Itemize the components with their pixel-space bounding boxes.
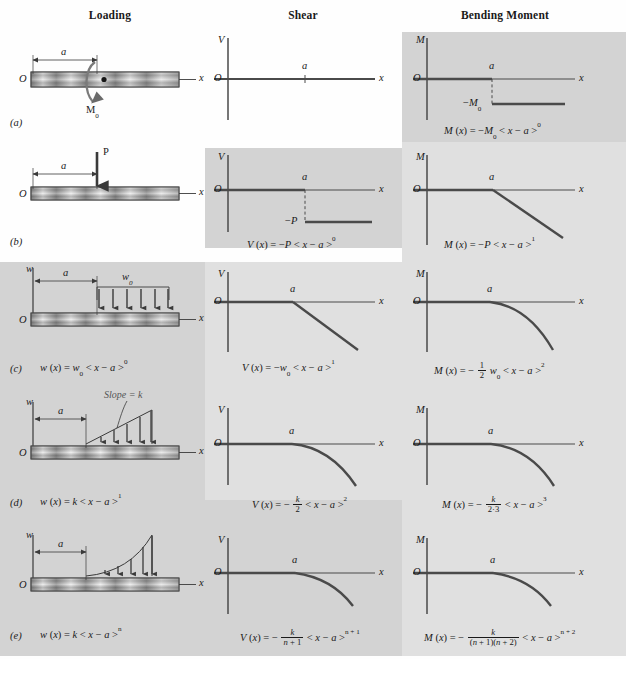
row-e-loading-w-label: w — [26, 529, 33, 540]
row-c-shear-x-label: x — [379, 295, 384, 306]
row-e-moment-tick-a-label: a — [490, 554, 495, 565]
row-d-loading-w-label: w — [26, 396, 33, 407]
row-e-shear-plot — [214, 538, 375, 614]
row-a-shear-axis-label: V — [218, 34, 224, 45]
row-c-loading-equation: w (x) = w0 < x − a >0 — [40, 363, 127, 374]
row-e-shear-origin-label: O — [214, 566, 222, 577]
row-c-moment-axis-label: M — [416, 268, 425, 279]
row-a-shear-x-label: x — [379, 72, 384, 83]
row-c-shear-tick-a-label: a — [290, 283, 295, 294]
row-c-loading-w-label: w — [26, 263, 33, 274]
row-e-moment-plot — [413, 538, 575, 614]
row-d-loading-origin-label: O — [19, 447, 27, 458]
row-d-shear-tick-a-label: a — [289, 425, 294, 436]
row-a-loading-origin-label: O — [19, 73, 27, 84]
row-a-moment-origin-label: O — [413, 72, 421, 83]
row-e-moment-equation: M (x) = − k(n + 1)(n + 2) < x − a >n + 2 — [424, 628, 575, 647]
row-d-loading-equation: w (x) = k < x − a >1 — [40, 497, 122, 508]
row-b-shear-equation: V (x) = −P < x − a >0 — [247, 240, 336, 251]
row-e-loading-origin-label: O — [19, 579, 27, 590]
row-a-moment-equation: M (x) = −M0 < x − a >0 — [444, 126, 541, 137]
row-b-moment-equation: M (x) = −P < x − a >1 — [444, 240, 535, 251]
row-d-moment-x-label: x — [579, 437, 584, 448]
row-e-moment-x-label: x — [579, 566, 584, 577]
row-e-moment-axis-label: M — [416, 534, 425, 545]
row-c-moment-tick-a-label: a — [487, 283, 492, 294]
row-e-loading-x-label: x — [199, 577, 204, 588]
row-e-moment-origin-label: O — [413, 566, 421, 577]
row-c-moment-x-label: x — [579, 295, 584, 306]
row-b-moment-plot — [413, 155, 575, 245]
singularity-function-figure: Loading Shear Bending Moment (a) (b) (c)… — [0, 0, 626, 681]
row-d-loading-diagram — [31, 401, 196, 459]
row-b-shear-origin-label: O — [214, 183, 222, 194]
row-d-shear-axis-label: V — [218, 404, 224, 415]
row-b-moment-origin-label: O — [413, 183, 421, 194]
row-d-loading-dim-a-label: a — [58, 405, 63, 416]
row-d-moment-tick-a-label: a — [488, 425, 493, 436]
row-b-moment-tick-a-label: a — [489, 171, 494, 182]
row-c-loading-dim-a-label: a — [63, 267, 68, 278]
row-d-shear-equation: V (x) = − k2 < x − a >2 — [252, 495, 347, 514]
row-d-shear-x-label: x — [379, 437, 384, 448]
row-e-loading-equation: w (x) = k < x − a >n — [40, 630, 122, 641]
row-c-loading-origin-label: O — [19, 314, 27, 325]
row-c-loading-w0-label: w0 — [122, 271, 133, 282]
row-a-shear-plot — [214, 38, 375, 120]
row-c-shear-axis-label: V — [218, 268, 224, 279]
row-c-moment-plot — [413, 272, 575, 352]
row-d-loading-x-label: x — [199, 445, 204, 456]
row-b-moment-x-label: x — [579, 183, 584, 194]
row-e-shear-axis-label: V — [218, 534, 224, 545]
row-e-loading-diagram — [31, 535, 196, 591]
row-c-moment-origin-label: O — [413, 295, 421, 306]
row-e-shear-tick-a-label: a — [292, 554, 297, 565]
row-b-moment-axis-label: M — [416, 151, 425, 162]
row-b-loading-dim-a-label: a — [61, 160, 66, 171]
row-e-shear-equation: V (x) = − kn + 1 < x − a >n + 1 — [240, 628, 360, 647]
row-b-loading-origin-label: O — [19, 188, 27, 199]
row-a-moment-x-label: x — [579, 72, 584, 83]
row-a-loading-dim-a-label: a — [61, 46, 66, 57]
row-d-loading-slope-label: Slope = k — [104, 389, 142, 400]
row-b-loading-x-label: x — [199, 186, 204, 197]
page-bottom-margin — [0, 659, 626, 681]
row-d-moment-equation: M (x) = − k2·3 < x − a >3 — [442, 495, 547, 514]
row-c-moment-equation: M (x) = − 12 w0 < x − a >2 — [434, 361, 545, 380]
row-a-shear-tick-a-label: a — [302, 60, 307, 71]
row-d-moment-origin-label: O — [413, 437, 421, 448]
row-a-loading-diagram — [31, 55, 196, 102]
row-a-loading-moment-label: M0 — [86, 104, 99, 115]
row-c-shear-origin-label: O — [214, 295, 222, 306]
row-b-loading-diagram — [31, 152, 196, 200]
row-b-shear-value-label: −P — [285, 215, 297, 226]
row-a-shear-origin-label: O — [214, 72, 222, 83]
row-e-loading-dim-a-label: a — [58, 538, 63, 549]
row-b-shear-tick-a-label: a — [302, 171, 307, 182]
row-d-shear-plot — [214, 408, 375, 486]
row-a-moment-plot — [413, 38, 575, 120]
row-d-shear-origin-label: O — [214, 437, 222, 448]
row-a-moment-tick-a-label: a — [489, 60, 494, 71]
row-d-moment-axis-label: M — [416, 404, 425, 415]
row-c-loading-diagram — [31, 268, 196, 326]
row-c-loading-x-label: x — [199, 312, 204, 323]
row-b-shear-axis-label: V — [218, 151, 224, 162]
row-a-loading-x-label: x — [199, 72, 204, 83]
row-b-loading-force-label: P — [103, 146, 109, 157]
diagram-vector-layer — [0, 0, 626, 681]
row-e-shear-x-label: x — [379, 566, 384, 577]
row-b-shear-x-label: x — [379, 183, 384, 194]
row-d-moment-plot — [413, 408, 575, 486]
row-a-moment-value-label: −M0 — [463, 97, 481, 108]
row-c-shear-equation: V (x) = −w0 < x − a >1 — [242, 363, 335, 374]
row-a-moment-axis-label: M — [416, 34, 425, 45]
